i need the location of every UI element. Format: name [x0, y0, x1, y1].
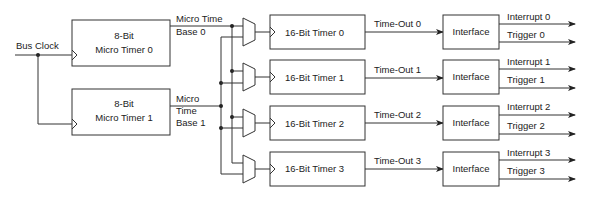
time-out-2-label: Time-Out 2	[374, 109, 421, 120]
time-base-1-label: Micro	[176, 93, 199, 104]
time-base-0-label: Micro Time	[176, 13, 222, 24]
interrupt-3-label: Interrupt 3	[507, 147, 550, 158]
16-bit-timer-2-label: 16-Bit Timer 2	[285, 118, 344, 129]
micro-timer-1-name: Micro Timer 1	[95, 112, 153, 123]
interface-1-label: Interface	[453, 71, 490, 82]
trigger-3-label: Trigger 3	[507, 165, 545, 176]
interrupt-1-label: Interrupt 1	[507, 56, 550, 67]
timer-block-diagram: Bus Clock 8-Bit Micro Timer 0 8-Bit Micr…	[0, 0, 591, 198]
16-bit-timer-0-label: 16-Bit Timer 0	[285, 27, 344, 38]
micro-timer-1-block: 8-Bit Micro Timer 1	[72, 89, 170, 135]
time-out-0-label: Time-Out 0	[374, 18, 421, 29]
mux-0	[243, 18, 255, 46]
interface-0-label: Interface	[453, 26, 490, 37]
bus-clock-label: Bus Clock	[16, 40, 59, 51]
timer-row-2: 16-Bit Timer 2 Time-Out 2 Interface Inte…	[243, 101, 575, 140]
trigger-2-label: Trigger 2	[507, 120, 545, 131]
mux-2	[243, 109, 255, 137]
16-bit-timer-1-label: 16-Bit Timer 1	[285, 72, 344, 83]
interface-2-label: Interface	[453, 117, 490, 128]
mux-3	[243, 155, 255, 183]
interrupt-0-label: Interrupt 0	[507, 11, 550, 22]
timer-row-1: 16-Bit Timer 1 Time-Out 1 Interface Inte…	[243, 56, 575, 94]
time-base-1-label-2: Time	[176, 105, 197, 116]
micro-timer-1-title: 8-Bit	[114, 98, 134, 109]
interrupt-2-label: Interrupt 2	[507, 101, 550, 112]
micro-timer-0-block: 8-Bit Micro Timer 0	[72, 20, 170, 66]
micro-timer-0-name: Micro Timer 0	[95, 44, 153, 55]
trigger-0-label: Trigger 0	[507, 29, 545, 40]
time-out-3-label: Time-Out 3	[374, 155, 421, 166]
micro-timer-0-title: 8-Bit	[114, 30, 134, 41]
time-base-0-bus: Micro Time Base 0	[170, 13, 243, 163]
time-base-0-label-2: Base 0	[176, 26, 206, 37]
timer-row-0: 16-Bit Timer 0 Time-Out 0 Interface Inte…	[243, 11, 575, 49]
trigger-1-label: Trigger 1	[507, 74, 545, 85]
time-out-1-label: Time-Out 1	[374, 64, 421, 75]
16-bit-timer-3-label: 16-Bit Timer 3	[285, 163, 344, 174]
mux-1	[243, 63, 255, 91]
bus-clock-input: Bus Clock	[15, 40, 72, 124]
time-base-1-label-3: Base 1	[176, 117, 206, 128]
interface-3-label: Interface	[453, 163, 490, 174]
timer-row-3: 16-Bit Timer 3 Time-Out 3 Interface Inte…	[243, 147, 575, 186]
